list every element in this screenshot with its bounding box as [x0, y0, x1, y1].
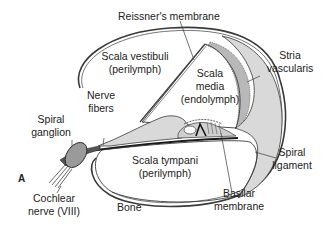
label-scala-vestibuli-1: Scala vestibuli: [101, 50, 168, 62]
label-bone: Bone: [117, 201, 142, 213]
panel-letter: A: [18, 173, 25, 184]
label-spiral-ligament-1: Spiral: [279, 146, 306, 158]
label-cochlear-nerve-1: Cochlear: [33, 192, 76, 204]
cochlea-cross-section-diagram: Reissner's membrane Scala vestibuli (per…: [0, 0, 327, 227]
label-spiral-ganglion-2: ganglion: [31, 126, 71, 138]
organ-of-corti: [178, 120, 236, 139]
label-scala-media-3: (endolymph): [181, 93, 239, 105]
label-basilar-membrane-2: membrane: [214, 200, 264, 212]
label-stria-vascularis-2: vascularis: [267, 62, 314, 74]
spiral-ganglion: [61, 138, 92, 171]
label-scala-media-1: Scala: [197, 67, 223, 79]
label-spiral-ligament-2: ligament: [272, 159, 312, 171]
label-scala-tympani-1: Scala tympani: [132, 154, 198, 166]
label-cochlear-nerve-2: nerve (VIII): [28, 205, 80, 217]
cochlear-nerve: [49, 164, 72, 188]
label-reissners-membrane: Reissner's membrane: [118, 10, 220, 22]
label-stria-vascularis-1: Stria: [279, 49, 301, 61]
label-basilar-membrane-1: Basilar: [223, 187, 256, 199]
label-nerve-fibers-1: Nerve: [87, 89, 115, 101]
label-scala-vestibuli-2: (perilymph): [109, 63, 162, 75]
label-spiral-ganglion-1: Spiral: [38, 113, 65, 125]
label-scala-tympani-2: (perilymph): [139, 167, 192, 179]
label-scala-media-2: media: [196, 80, 225, 92]
label-nerve-fibers-2: fibers: [88, 102, 114, 114]
